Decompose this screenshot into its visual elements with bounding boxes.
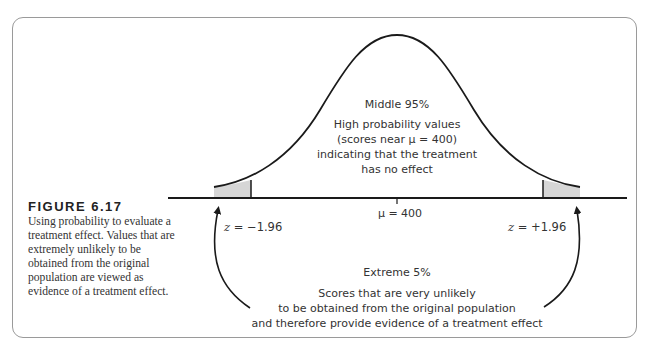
extreme-region-line-1: Scores that are very unlikely — [318, 286, 475, 301]
middle-region-line-4: has no effect — [361, 162, 433, 177]
middle-region-line-3: indicating that the treatment — [317, 147, 477, 162]
extreme-region-line-3: and therefore provide evidence of a trea… — [251, 316, 542, 331]
extreme-region-line-2: to be obtained from the original populat… — [278, 301, 516, 316]
mean-label: μ = 400 — [378, 206, 422, 221]
extreme-region-title: Extreme 5% — [363, 265, 430, 280]
figure-caption: FIGURE 6.17 Using probability to evaluat… — [28, 199, 178, 300]
z-right-value: = +1.96 — [514, 220, 566, 234]
middle-region-line-1: High probability values — [334, 117, 461, 132]
z-right-label: z = +1.96 — [508, 220, 566, 234]
middle-region-line-2: (scores near μ = 400) — [337, 132, 457, 147]
figure-label: FIGURE 6.17 — [28, 199, 178, 214]
figure-caption-text: Using probability to evaluate a treatmen… — [28, 215, 178, 300]
middle-region-title: Middle 95% — [365, 97, 429, 112]
z-left-value: = −1.96 — [230, 220, 282, 234]
z-left-label: z = −1.96 — [224, 220, 282, 234]
